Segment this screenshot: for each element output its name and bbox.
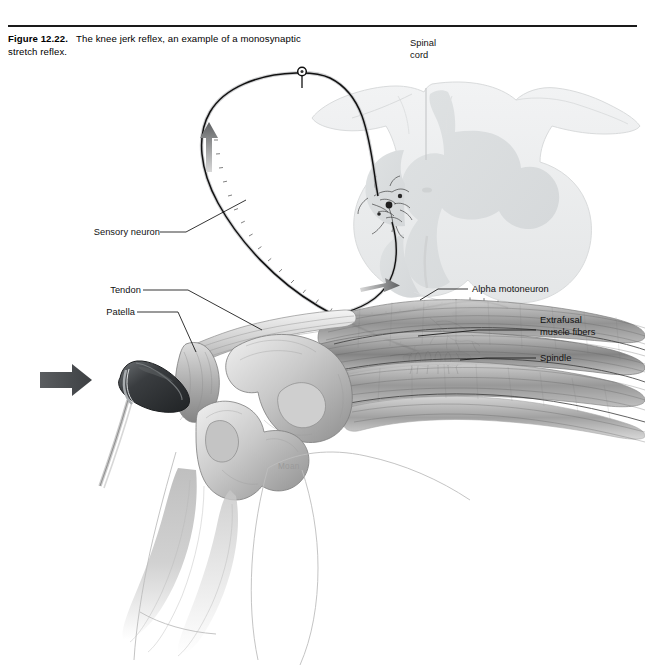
dorsal-root-ganglion: [298, 67, 307, 88]
label-extrafusal-line1: Extrafusal: [540, 314, 582, 326]
label-watermark: Moan: [278, 461, 300, 473]
central-canal: [422, 187, 432, 192]
hammer-strike-arrow: [40, 364, 92, 396]
tibia-shaft: [122, 468, 196, 640]
label-tendon: Tendon: [63, 284, 141, 296]
quadriceps-muscle: [316, 300, 645, 442]
label-sensory-neuron: Sensory neuron: [60, 226, 160, 238]
figure-page: Figure 12.22. The knee jerk reflex, an e…: [0, 0, 645, 665]
reflex-hammer: [40, 361, 190, 488]
label-spinal-cord-line1: Spinal: [410, 37, 436, 49]
label-extrafusal-line2: muscle fibers: [540, 326, 595, 338]
label-spindle: Spindle: [540, 352, 571, 364]
label-alpha-motoneuron: Alpha motoneuron: [472, 283, 549, 295]
leader-tendon: [143, 290, 262, 330]
label-patella: Patella: [57, 306, 135, 318]
label-spinal-cord-line2: cord: [410, 49, 428, 61]
